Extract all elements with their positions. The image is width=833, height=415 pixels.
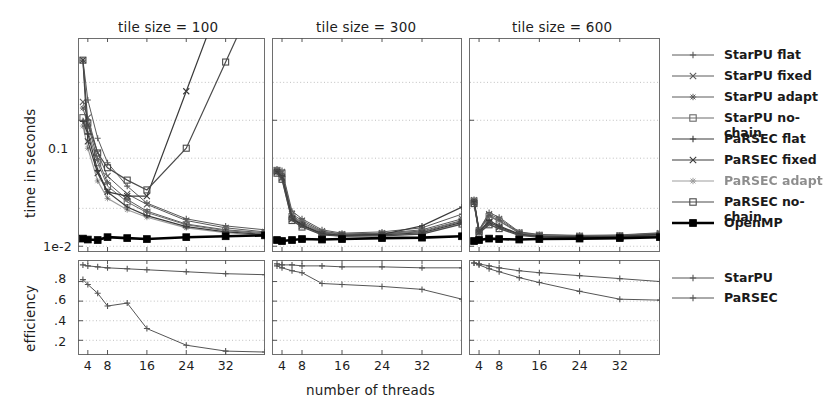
legend-item-label: PaRSEC adapt	[724, 173, 823, 188]
legend-time-item[interactable]: OpenMP	[670, 216, 830, 230]
legend-line-sample-icon	[670, 153, 716, 167]
x-tick-label: 4	[475, 358, 483, 373]
legend-time-item[interactable]: PaRSEC fixed	[670, 153, 830, 167]
legend-line-sample-icon	[670, 174, 716, 188]
legend-line-sample-icon	[670, 48, 716, 62]
legend-efficiency-item[interactable]: PaRSEC	[670, 291, 830, 305]
legend-line-sample-icon	[670, 195, 716, 209]
legend-line-sample-icon	[670, 69, 716, 83]
legend-line-sample-icon	[670, 271, 716, 285]
legend-line-sample-icon	[670, 90, 716, 104]
x-tick-label: 24	[374, 358, 390, 373]
x-tick-label: 32	[218, 358, 234, 373]
legend-item-label: OpenMP	[724, 215, 783, 230]
legend-time-item[interactable]: StarPU no-chain	[670, 111, 830, 125]
legend-item-label: PaRSEC flat	[724, 131, 806, 146]
legend-line-sample-icon	[670, 132, 716, 146]
legend-item-label: StarPU	[724, 270, 773, 285]
x-tick-label: 32	[414, 358, 430, 373]
legend-time-item[interactable]: PaRSEC no-chain	[670, 195, 830, 209]
legend-time-item[interactable]: PaRSEC adapt	[670, 174, 830, 188]
x-tick-label: 16	[531, 358, 547, 373]
x-tick-label: 32	[612, 358, 628, 373]
x-tick-label: 24	[572, 358, 588, 373]
legend-time-item[interactable]: StarPU flat	[670, 48, 830, 62]
x-tick-label: 16	[334, 358, 350, 373]
x-tick-label: 16	[139, 358, 155, 373]
x-tick-label: 4	[278, 358, 286, 373]
legend-item-label: StarPU adapt	[724, 89, 818, 104]
x-tick-label: 8	[104, 358, 112, 373]
figure-chart: tile size = 100 tile size = 300 tile siz…	[0, 0, 833, 415]
legend-line-sample-icon	[670, 111, 716, 125]
legend-time-item[interactable]: PaRSEC flat	[670, 132, 830, 146]
x-tick-label: 8	[495, 358, 503, 373]
legend-item-label: StarPU fixed	[724, 68, 812, 83]
legend-item-label: StarPU flat	[724, 47, 801, 62]
x-tick-label: 24	[178, 358, 194, 373]
x-tick-label: 4	[84, 358, 92, 373]
legend-item-label: PaRSEC fixed	[724, 152, 817, 167]
legend-time-item[interactable]: StarPU adapt	[670, 90, 830, 104]
legend-line-sample-icon	[670, 291, 716, 305]
legend-item-label: PaRSEC	[724, 290, 778, 305]
x-tick-label: 8	[298, 358, 306, 373]
legend-efficiency-item[interactable]: StarPU	[670, 271, 830, 285]
legend-line-sample-icon	[670, 216, 716, 230]
legend-time-item[interactable]: StarPU fixed	[670, 69, 830, 83]
